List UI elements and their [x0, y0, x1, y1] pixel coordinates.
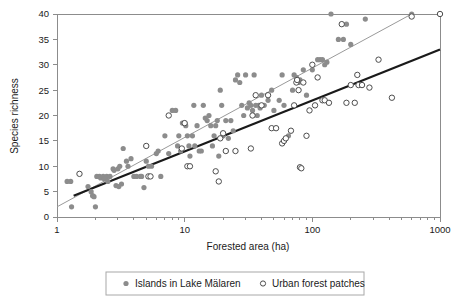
data-point [69, 204, 74, 209]
data-point [166, 113, 171, 118]
data-point [105, 179, 110, 184]
data-point [216, 154, 221, 159]
data-point [219, 103, 224, 108]
data-point [125, 164, 130, 169]
data-point [409, 14, 414, 19]
data-point [259, 103, 264, 108]
y-tick-label: 20 [38, 110, 49, 121]
data-point [277, 98, 282, 103]
data-point [437, 11, 442, 16]
legend-marker-islands [123, 281, 128, 286]
data-point [158, 174, 163, 179]
x-tick-label: 1000 [429, 224, 450, 235]
data-point [107, 174, 112, 179]
data-point [201, 103, 206, 108]
y-tick-label: 0 [44, 211, 49, 222]
data-point [166, 151, 171, 156]
y-tick-label: 15 [38, 135, 49, 146]
data-point [211, 133, 216, 138]
data-point [290, 88, 295, 93]
data-point [141, 185, 146, 190]
x-tick-label: 100 [304, 224, 320, 235]
data-point [91, 194, 96, 199]
data-point [139, 174, 144, 179]
data-point [355, 72, 360, 77]
data-point [307, 108, 312, 113]
y-tick-label: 30 [38, 59, 49, 70]
data-point [182, 120, 187, 125]
species-area-chart-figure: 0510152025303540 1101001000 Species rich… [0, 0, 468, 304]
data-point [389, 95, 394, 100]
data-points [65, 11, 443, 209]
data-point [336, 37, 341, 42]
data-point [194, 123, 199, 128]
data-point [320, 57, 325, 62]
data-point [296, 87, 301, 92]
y-tick-label: 25 [38, 85, 49, 96]
data-point [148, 174, 153, 179]
data-point [124, 159, 129, 164]
data-point [281, 103, 286, 108]
legend-label-urban: Urban forest patches [272, 278, 365, 289]
data-point [218, 136, 223, 141]
data-point [93, 204, 98, 209]
data-point [283, 136, 288, 141]
data-point [250, 108, 255, 113]
data-point [144, 159, 149, 164]
y-tick-label: 40 [38, 8, 49, 19]
data-point [218, 88, 223, 93]
data-point [119, 181, 124, 186]
data-point [312, 103, 317, 108]
data-point [128, 156, 133, 161]
data-point [339, 21, 344, 26]
data-point [185, 133, 190, 138]
x-axis-title: Forested area (ha) [207, 241, 290, 252]
data-point [233, 148, 238, 153]
data-point [213, 123, 218, 128]
trendlines [57, 14, 440, 207]
data-point [288, 128, 293, 133]
data-point [77, 171, 82, 176]
data-point [226, 136, 231, 141]
data-point [144, 143, 149, 148]
data-point [187, 154, 192, 159]
data-point [243, 72, 248, 77]
data-point [253, 93, 258, 98]
y-tick-label: 5 [44, 186, 49, 197]
data-point [190, 133, 195, 138]
data-point [187, 164, 192, 169]
data-point [228, 118, 233, 123]
data-point [315, 75, 320, 80]
data-point [271, 108, 276, 113]
data-point [68, 179, 73, 184]
data-point [206, 113, 211, 118]
data-point [149, 164, 154, 169]
data-point [310, 67, 315, 72]
data-point [192, 143, 197, 148]
data-point [252, 72, 257, 77]
x-tick-label: 10 [179, 224, 190, 235]
data-point [248, 146, 253, 151]
data-point [344, 100, 349, 105]
data-point [280, 72, 285, 77]
data-point [248, 103, 253, 108]
data-point [348, 82, 353, 87]
x-axis: 1101001000 [54, 217, 450, 235]
data-point [376, 57, 381, 62]
x-tick-label: 1 [54, 224, 59, 235]
data-point [259, 93, 264, 98]
data-point [352, 100, 357, 105]
data-point [250, 113, 255, 118]
data-point [179, 146, 184, 151]
data-point [294, 77, 299, 82]
data-point [348, 42, 353, 47]
data-point [223, 148, 228, 153]
data-point [162, 133, 167, 138]
legend-marker-urban [260, 281, 265, 286]
data-point [220, 131, 225, 136]
data-point [304, 133, 309, 138]
data-point [210, 143, 215, 148]
data-point [199, 148, 204, 153]
data-point [269, 88, 274, 93]
data-point [304, 93, 309, 98]
